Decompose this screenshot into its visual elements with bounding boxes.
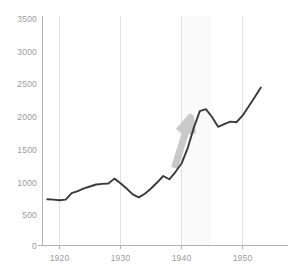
- x-axis-ticks: [60, 246, 243, 250]
- y-tick-label-0: 0: [32, 241, 37, 251]
- y-tick-label-3000: 3000: [17, 47, 37, 57]
- y-tick-label-1500: 1500: [17, 145, 37, 155]
- y-axis-labels: 3500 3000 2500 2000 1500 1000 500 0: [17, 14, 37, 251]
- line-chart: 3500 3000 2500 2000 1500 1000 500 0 1920…: [0, 0, 294, 275]
- gridlines: [60, 16, 243, 245]
- series-line-value: [47, 87, 260, 200]
- x-tick-label-1940: 1940: [172, 253, 192, 263]
- y-tick-label-3500: 3500: [17, 14, 37, 24]
- x-axis-labels: 1920 1930 1940 1950: [50, 253, 253, 263]
- y-tick-label-2000: 2000: [17, 112, 37, 122]
- y-tick-label-1000: 1000: [17, 178, 37, 188]
- x-tick-label-1920: 1920: [50, 253, 70, 263]
- x-tick-label-1950: 1950: [233, 253, 253, 263]
- chart-container: 3500 3000 2500 2000 1500 1000 500 0 1920…: [0, 0, 294, 275]
- y-tick-label-2500: 2500: [17, 79, 37, 89]
- x-tick-label-1930: 1930: [111, 253, 131, 263]
- y-tick-label-500: 500: [22, 210, 37, 220]
